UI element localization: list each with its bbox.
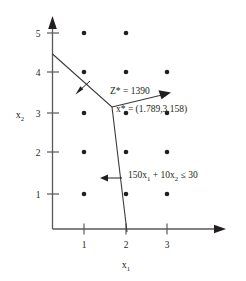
lattice-point bbox=[82, 150, 87, 155]
lattice-point bbox=[82, 70, 87, 75]
constraint-suffix: ≤ 30 bbox=[178, 170, 198, 180]
x-axis-title-sub: 1 bbox=[127, 265, 130, 272]
lp-graph-figure: 5 4 3 2 1 1 2 3 x2 x1 bbox=[0, 0, 246, 281]
constraint-inequality-label: 150x1 + 10x2 ≤ 30 bbox=[128, 170, 198, 182]
feasible-region-boundary bbox=[53, 54, 128, 232]
lattice-point bbox=[124, 70, 129, 75]
lattice-point bbox=[82, 111, 87, 116]
lattice-point bbox=[82, 31, 87, 36]
lattice-point bbox=[165, 150, 170, 155]
y-tick-labels: 5 4 3 2 1 bbox=[36, 29, 41, 200]
y-tick-label-4: 4 bbox=[36, 68, 41, 78]
plot-svg: 5 4 3 2 1 1 2 3 x2 x1 bbox=[0, 0, 246, 281]
lattice-point bbox=[124, 31, 129, 36]
region-side-pointer bbox=[76, 81, 91, 95]
y-axis-arrowhead bbox=[48, 16, 57, 29]
y-tick-label-5: 5 bbox=[36, 29, 41, 39]
x-tick-labels: 1 2 3 bbox=[82, 240, 170, 250]
region-side-pointer-head bbox=[76, 86, 84, 94]
x-tick-label-2: 2 bbox=[124, 240, 129, 250]
lattice-point bbox=[124, 150, 129, 155]
lattice-point bbox=[165, 70, 170, 75]
x-axis-arrowhead bbox=[214, 225, 226, 234]
constraint-side-pointer-head bbox=[100, 174, 108, 181]
y-tick-label-2: 2 bbox=[36, 148, 41, 158]
optimal-solution-label: x* = (1.789,3.158) bbox=[116, 104, 187, 115]
objective-gradient-head bbox=[159, 90, 172, 99]
lattice-point bbox=[124, 192, 129, 197]
lattice-point bbox=[165, 192, 170, 197]
y-axis-title: x2 bbox=[16, 109, 25, 122]
y-tick-label-1: 1 bbox=[36, 190, 41, 200]
constraint-side-pointer bbox=[100, 174, 122, 181]
constraint-mid: + 10x bbox=[150, 170, 175, 180]
lattice-point bbox=[82, 192, 87, 197]
y-tick-label-3: 3 bbox=[36, 109, 41, 119]
axes-group bbox=[48, 16, 226, 233]
y-axis-title-sub: 2 bbox=[21, 115, 25, 122]
x-tick-label-1: 1 bbox=[82, 240, 87, 250]
constraint-prefix: 150x bbox=[128, 170, 147, 180]
objective-value-label: Z* = 1390 bbox=[110, 86, 150, 96]
x-tick-label-3: 3 bbox=[165, 240, 170, 250]
x-axis-title: x1 bbox=[122, 259, 130, 272]
